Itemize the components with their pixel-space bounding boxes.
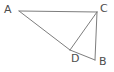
vertex-label-B: B — [99, 56, 107, 67]
segment-CB — [95, 12, 97, 60]
vertex-label-D: D — [71, 53, 79, 64]
geometry-figure: A C D B — [0, 0, 114, 72]
segment-AC — [19, 11, 97, 12]
figure-svg — [0, 0, 114, 72]
segment-AD — [19, 11, 70, 50]
vertex-label-C: C — [100, 3, 108, 14]
segments-group — [19, 11, 97, 60]
segment-CD — [70, 12, 97, 50]
vertex-label-A: A — [4, 4, 12, 15]
